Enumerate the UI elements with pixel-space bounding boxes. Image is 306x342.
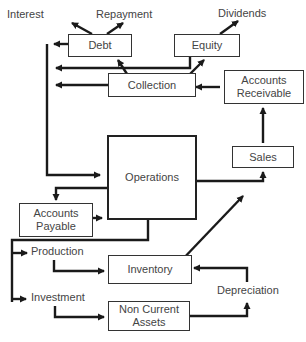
arrow-debt-to-interest xyxy=(72,23,92,34)
label-production: Production xyxy=(31,245,84,257)
node-non-current-assets: Non Current Assets xyxy=(108,301,190,331)
node-inventory: Inventory xyxy=(108,255,192,284)
node-equity: Equity xyxy=(174,34,240,57)
arrow-equity-to-dividends xyxy=(220,21,238,34)
node-sales: Sales xyxy=(232,146,294,168)
arrow-debt-to-repayment xyxy=(107,23,123,34)
label-dividends: Dividends xyxy=(218,7,266,19)
label-depreciation: Depreciation xyxy=(217,284,279,296)
node-collection: Collection xyxy=(108,73,196,97)
node-operations: Operations xyxy=(107,135,197,220)
label-interest: Interest xyxy=(7,8,44,20)
label-repayment: Repayment xyxy=(96,8,152,20)
node-accounts-receivable: Accounts Receivable xyxy=(224,70,304,104)
label-investment: Investment xyxy=(31,291,85,303)
node-accounts-payable: Accounts Payable xyxy=(19,203,93,237)
node-debt: Debt xyxy=(68,34,132,57)
